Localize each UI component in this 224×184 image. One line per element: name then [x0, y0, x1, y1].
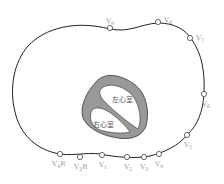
electrode-v5-label: V5 [183, 141, 192, 150]
electrode-v3r-label: V3R [73, 163, 88, 172]
electrode-v3-marker [141, 154, 146, 159]
electrode-v7-marker [187, 35, 192, 40]
electrode-v6-label: V6 [201, 100, 210, 109]
electrode-v4r-label: V4R [51, 160, 66, 169]
electrode-v1-label: V1 [98, 161, 107, 170]
electrode-v4r-marker [57, 151, 62, 156]
electrode-v1-marker [99, 152, 104, 157]
electrode-v2-label: V2 [123, 163, 132, 172]
electrode-v4-label: V4 [154, 160, 163, 169]
left-ventricle-label: 左心室 [112, 95, 133, 104]
electrode-v6-marker [201, 91, 206, 96]
ecg-electrode-diagram: 左心室 右心室 V9V8V7V6V5V4V3V2V1V3RV4R [0, 0, 224, 184]
electrode-v2-marker [124, 154, 129, 159]
electrode-v3r-marker [77, 154, 82, 159]
diagram-svg: 左心室 右心室 V9V8V7V6V5V4V3V2V1V3RV4R [0, 0, 224, 184]
electrode-v3-label: V3 [139, 163, 148, 172]
electrode-v8-marker [155, 19, 160, 24]
electrode-v9-marker [107, 25, 112, 30]
electrode-v9-label: V9 [105, 17, 114, 26]
electrode-v5-marker [184, 132, 189, 137]
electrode-v4-marker [156, 151, 161, 156]
electrode-v8-label: V8 [163, 16, 172, 25]
electrode-v7-label: V7 [195, 34, 204, 43]
right-ventricle-label: 右心室 [93, 120, 114, 129]
